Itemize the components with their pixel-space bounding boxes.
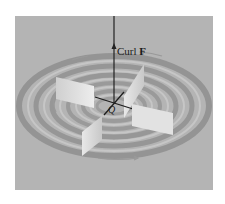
point-q-label: Q	[108, 104, 115, 115]
curl-text: Curl	[117, 45, 139, 57]
curl-f-label: Curl F	[117, 45, 146, 57]
curl-paddle-wheel-figure: Curl F Q	[0, 0, 225, 204]
diagram-canvas	[0, 0, 225, 204]
vector-f: F	[139, 45, 146, 57]
